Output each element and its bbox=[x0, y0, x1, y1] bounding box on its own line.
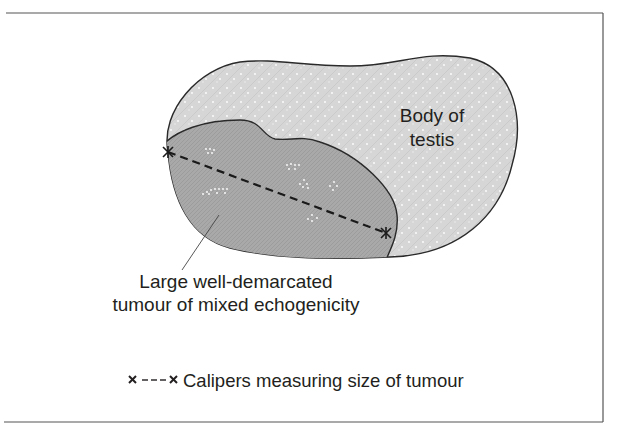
testis-tumour-diagram: Body of testis Large well-demarcated tum… bbox=[0, 0, 631, 443]
legend-text: Calipers measuring size of tumour bbox=[183, 370, 464, 391]
tumour-label-line2: tumour of mixed echogenicity bbox=[112, 294, 360, 315]
tumour-label-line1: Large well-demarcated bbox=[139, 271, 332, 292]
body-label-line2: testis bbox=[410, 129, 454, 150]
body-label-line1: Body of bbox=[400, 105, 465, 126]
legend-caliper-symbol bbox=[129, 376, 177, 383]
legend: Calipers measuring size of tumour bbox=[129, 370, 464, 391]
